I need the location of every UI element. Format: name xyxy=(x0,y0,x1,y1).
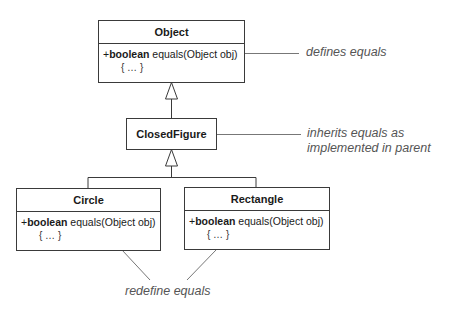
operation-equals: +boolean equals(Object obj) xyxy=(21,215,160,229)
method-body: { … } xyxy=(189,228,329,242)
class-circle[interactable]: Circle +boolean equals(Object obj) { … } xyxy=(16,188,161,251)
note-leader-circle xyxy=(122,250,150,280)
note-defines-equals: defines equals xyxy=(306,45,387,60)
class-operations: +boolean equals(Object obj) { … } xyxy=(99,44,244,75)
method-signature: equals(Object obj) xyxy=(238,215,323,227)
generalization-arrowhead-closedfigure xyxy=(166,150,178,167)
class-name: Rectangle xyxy=(185,188,329,211)
return-type: boolean xyxy=(109,48,149,60)
class-name: ClosedFigure xyxy=(136,128,206,140)
class-name: Circle xyxy=(17,189,160,212)
class-rectangle[interactable]: Rectangle +boolean equals(Object obj) { … xyxy=(184,187,330,250)
class-closedfigure[interactable]: ClosedFigure xyxy=(126,118,217,150)
method-signature: equals(Object obj) xyxy=(152,48,237,60)
method-body: { … } xyxy=(21,229,160,243)
operation-equals: +boolean equals(Object obj) xyxy=(189,214,329,228)
class-operations: +boolean equals(Object obj) { … } xyxy=(17,212,160,243)
class-operations: +boolean equals(Object obj) { … } xyxy=(185,211,329,242)
generalization-arrowhead-object xyxy=(166,83,178,100)
note-inherits-equals: inherits equals as implemented in parent xyxy=(307,126,431,156)
method-signature: equals(Object obj) xyxy=(70,216,155,228)
operation-equals: +boolean equals(Object obj) xyxy=(103,47,244,61)
note-redefine-equals: redefine equals xyxy=(125,284,210,299)
return-type: boolean xyxy=(195,215,235,227)
method-body: { … } xyxy=(103,61,244,75)
class-object[interactable]: Object +boolean equals(Object obj) { … } xyxy=(98,20,245,83)
class-name: Object xyxy=(99,21,244,44)
note-line-2: implemented in parent xyxy=(307,141,431,156)
return-type: boolean xyxy=(27,216,67,228)
note-line-1: inherits equals as xyxy=(307,126,431,141)
note-leader-rectangle xyxy=(187,250,216,280)
